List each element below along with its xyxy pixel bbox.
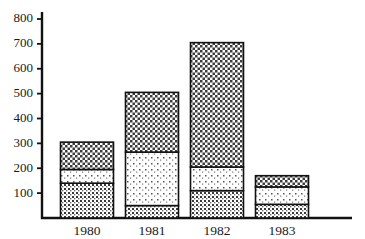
bar-segment bbox=[191, 167, 244, 191]
bar-segment bbox=[191, 43, 244, 167]
stacked-bar-chart: 100200300400500600700800 198019811982198… bbox=[0, 0, 365, 239]
bar-segment bbox=[191, 191, 244, 218]
bar-segment bbox=[126, 92, 179, 152]
bar-segment bbox=[126, 152, 179, 205]
bar-segment bbox=[61, 183, 114, 218]
y-axis-tick-label: 600 bbox=[14, 60, 34, 75]
bar-segment bbox=[256, 187, 309, 204]
x-axis-category-label: 1983 bbox=[269, 223, 296, 238]
y-axis-tick-label: 800 bbox=[14, 10, 34, 25]
bar-segment bbox=[61, 142, 114, 169]
bar-segment bbox=[61, 169, 114, 183]
bar-segment bbox=[126, 206, 179, 218]
x-axis-category-label: 1981 bbox=[139, 223, 166, 238]
y-axis-tick-label: 200 bbox=[14, 160, 34, 175]
y-axis-tick-labels: 100200300400500600700800 bbox=[14, 10, 34, 199]
bar-series-group bbox=[61, 43, 309, 218]
x-axis-category-labels: 1980198119821983 bbox=[74, 223, 296, 238]
y-axis-tick-label: 100 bbox=[14, 185, 34, 200]
y-axis-tick-label: 500 bbox=[14, 85, 34, 100]
chart-canvas: 100200300400500600700800 198019811982198… bbox=[0, 0, 365, 239]
y-axis-tick-label: 700 bbox=[14, 35, 34, 50]
bar-segment bbox=[256, 176, 309, 187]
bar-segment bbox=[256, 204, 309, 218]
y-axis-tick-label: 300 bbox=[14, 135, 34, 150]
y-axis-tick-label: 400 bbox=[14, 110, 34, 125]
x-axis-category-label: 1982 bbox=[204, 223, 231, 238]
x-axis-category-label: 1980 bbox=[74, 223, 101, 238]
